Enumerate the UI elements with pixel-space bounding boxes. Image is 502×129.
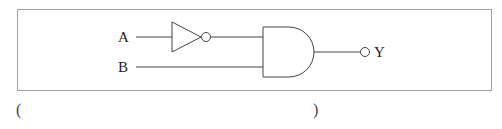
not-gate-bubble xyxy=(202,33,211,42)
diagram-frame xyxy=(18,10,492,91)
circuit-diagram: A B Y xyxy=(0,0,502,129)
input-label-a: A xyxy=(118,29,129,45)
not-gate-triangle xyxy=(172,22,201,52)
not-gate xyxy=(172,22,211,52)
output-bubble xyxy=(361,48,370,57)
and-gate xyxy=(263,27,314,77)
answer-paren-close: ) xyxy=(313,101,318,119)
answer-paren-open: ( xyxy=(16,101,21,119)
output-label-y: Y xyxy=(374,44,385,60)
input-label-b: B xyxy=(118,59,128,75)
